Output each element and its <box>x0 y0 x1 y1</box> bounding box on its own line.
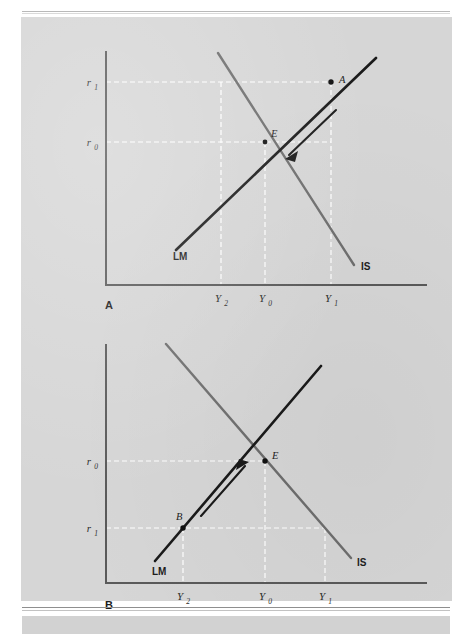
point-label-e-b: E <box>271 450 279 461</box>
y-tick-label-r1-a: r <box>87 76 92 88</box>
curve-label-lm-a: LM <box>173 251 187 262</box>
curve-label-is-b: IS <box>357 557 367 568</box>
page-bottom-rule-secondary <box>22 610 450 611</box>
point-marker-a <box>328 79 333 84</box>
y-tick-label-r0-a: r <box>87 136 92 148</box>
axes-a <box>106 52 426 285</box>
y-tick-sub-r0-b: 0 <box>94 462 98 471</box>
panel-label-a: A <box>105 299 113 309</box>
x-tick-labels-a: Y 2 Y 0 Y 1 <box>215 292 338 308</box>
axes-b <box>106 345 426 583</box>
chart-b-svg: r 0 r 1 Y 2 Y 0 Y 1 LM IS E <box>21 313 452 605</box>
page-top-rule-primary <box>22 11 450 12</box>
annotation-arrow-b <box>201 459 249 516</box>
chart-a-svg: r 1 r 0 Y 2 Y 0 Y 1 LM IS E <box>21 17 452 309</box>
curve-lm-a <box>176 58 376 250</box>
x-tick-label-y2-a: Y <box>215 292 223 304</box>
point-marker-e-a <box>263 140 268 145</box>
gridlines-a <box>106 82 331 285</box>
page-bottom-rule-primary <box>22 607 450 608</box>
point-marker-b <box>180 525 185 530</box>
y-tick-label-r1-b: r <box>87 522 92 534</box>
point-marker-e-b <box>262 458 267 463</box>
figure-plate: r 1 r 0 Y 2 Y 0 Y 1 LM IS E <box>21 17 452 601</box>
x-tick-sub-y0-a: 0 <box>268 299 272 308</box>
y-tick-sub-r1-a: 1 <box>94 83 98 92</box>
point-label-e-a: E <box>270 128 278 139</box>
curve-label-lm-b: LM <box>152 566 166 577</box>
x-tick-label-y0-a: Y <box>259 292 267 304</box>
annotation-arrow-shaft-a <box>289 110 336 155</box>
page-bottom-band <box>22 616 450 634</box>
point-label-b: B <box>176 511 183 522</box>
y-tick-labels-b: r 0 r 1 <box>87 455 98 538</box>
x-tick-label-y1-a: Y <box>325 292 333 304</box>
y-tick-sub-r1-b: 1 <box>94 529 98 538</box>
gridlines-b <box>106 461 325 583</box>
y-tick-sub-r0-a: 0 <box>94 143 98 152</box>
page-top-rule-secondary <box>22 13 450 14</box>
annotation-arrow-shaft-b <box>201 466 245 516</box>
chart-panel-a: r 1 r 0 Y 2 Y 0 Y 1 LM IS E <box>21 17 452 309</box>
point-label-a: A <box>338 74 346 85</box>
scanned-page: r 1 r 0 Y 2 Y 0 Y 1 LM IS E <box>0 0 469 634</box>
annotation-arrow-a <box>285 110 336 162</box>
x-tick-sub-y1-a: 1 <box>334 299 338 308</box>
x-tick-sub-y2-a: 2 <box>224 299 228 308</box>
y-tick-label-r0-b: r <box>87 455 92 467</box>
curve-label-is-a: IS <box>361 261 371 272</box>
y-tick-labels-a: r 1 r 0 <box>87 76 98 152</box>
curve-is-b <box>166 344 351 558</box>
